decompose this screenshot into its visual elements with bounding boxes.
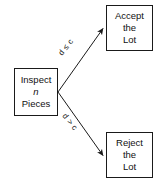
node-reject-line-3: Lot [123, 161, 136, 173]
node-inspect-line-1: Inspect [21, 74, 52, 86]
node-accept-line-1: Accept [115, 10, 144, 22]
node-reject-the-lot[interactable]: Reject the Lot [106, 132, 153, 178]
node-inspect-line-2-variable-n: n [33, 86, 38, 98]
node-reject-line-1: Reject [116, 137, 143, 149]
node-accept-line-2: the [123, 22, 136, 34]
node-accept-the-lot[interactable]: Accept the Lot [106, 5, 153, 51]
node-inspect-line-3: Pieces [22, 98, 51, 110]
node-reject-line-2: the [123, 149, 136, 161]
node-accept-line-3: Lot [123, 34, 136, 46]
flowchart-canvas: Inspect n Pieces Accept the Lot Reject t… [0, 0, 159, 181]
edge-inspect-to-accept [58, 29, 103, 93]
node-inspect-n-pieces[interactable]: Inspect n Pieces [14, 68, 58, 116]
